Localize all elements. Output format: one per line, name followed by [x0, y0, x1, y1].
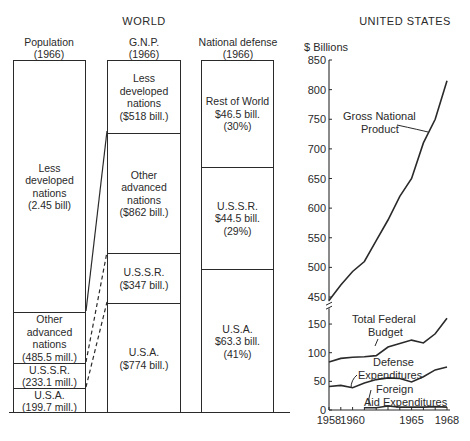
- tick-label: 650: [308, 173, 326, 185]
- tick-label: 750: [308, 113, 326, 125]
- tick-label: 600: [308, 202, 326, 214]
- gnp-label: Gross National: [343, 110, 416, 122]
- tick-label: 500: [308, 261, 326, 273]
- budget-label: Total Federal: [352, 313, 416, 325]
- x-tick-label: 1958: [317, 414, 341, 426]
- defense-label: Defense: [373, 356, 414, 368]
- connector-solid: [86, 131, 107, 311]
- tick-label: 150: [308, 318, 326, 330]
- x-tick-label: 1968: [435, 414, 459, 426]
- tick-label: 800: [308, 84, 326, 96]
- tick-label: 550: [308, 232, 326, 244]
- gnp-arrow-icon: [397, 125, 428, 132]
- x-tick-label: 1965: [399, 414, 423, 426]
- foreign-aid-label: Foreign: [376, 383, 413, 395]
- gnp-label: Product: [361, 123, 399, 135]
- budget-label: Budget: [368, 326, 403, 338]
- x-tick-label: 1960: [340, 414, 364, 426]
- tick-label: 700: [308, 143, 326, 155]
- tick-label: 50: [314, 375, 326, 387]
- us-title: UNITED STATES: [340, 15, 470, 27]
- defense-label: Expenditures: [358, 369, 423, 381]
- tick-label: 100: [308, 347, 326, 359]
- tick-label: 450: [308, 291, 326, 303]
- tick-label: 850: [308, 54, 326, 66]
- axis-break-icon: [326, 302, 332, 309]
- us-line-chart: 4505005506006507007508008500501001501958…: [290, 50, 470, 441]
- foreign-aid-label: Aid Expenditures: [364, 396, 448, 408]
